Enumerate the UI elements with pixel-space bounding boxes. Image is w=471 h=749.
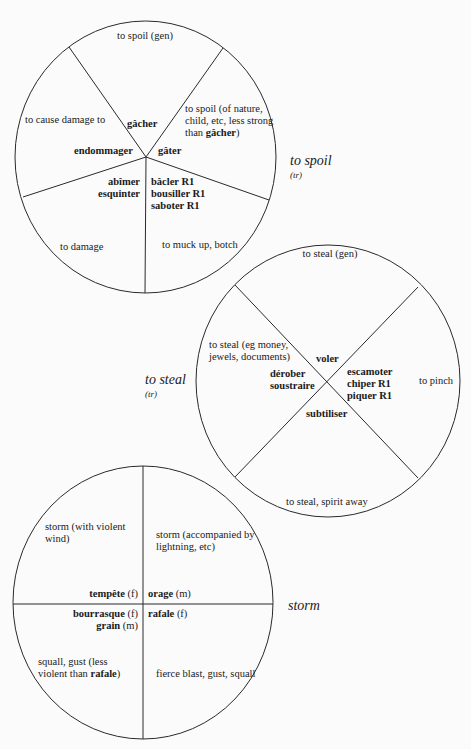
- text-suffix: ): [236, 127, 240, 138]
- spoil-word-esquinter: esquinter: [80, 188, 140, 200]
- spoil-sector-lower-right: to muck up, botch: [162, 239, 238, 251]
- spoil-word-gacher: gâcher: [127, 118, 157, 130]
- word: orage: [148, 588, 173, 599]
- storm-upper-right-line1: storm (accompanied by: [156, 529, 255, 541]
- word: bourrasque: [73, 608, 125, 619]
- storm-title: storm: [288, 599, 320, 613]
- steal-title: to steal: [145, 373, 186, 387]
- ref-gacher: gâcher: [206, 127, 236, 138]
- storm-word-bourrasque: bourrasque (f): [40, 608, 138, 620]
- gender: (f): [125, 588, 138, 599]
- text-prefix: violent than: [38, 668, 91, 679]
- storm-lower-left-line2: violent than rafale): [38, 668, 120, 680]
- spoil-word-endommager: endommager: [74, 145, 133, 157]
- text-suffix: ): [117, 668, 121, 679]
- steal-word-piquer: piquer R1: [347, 390, 392, 402]
- steal-words-left: dérober soustraire: [270, 368, 315, 392]
- storm-sector-upper-right: storm (accompanied by lightning, etc): [156, 529, 255, 553]
- spoil-sector-lower-left: to damage: [60, 241, 103, 253]
- spoil-sector-upper-right: to spoil (of nature, child, etc, less st…: [185, 103, 273, 139]
- steal-words-right: escamoter chiper R1 piquer R1: [347, 366, 392, 402]
- storm-sector-lower-right: fierce blast, gust, squall: [156, 668, 255, 680]
- storm-lower-left-line1: squall, gust (less: [38, 656, 120, 668]
- spoil-wheel: [15, 21, 276, 293]
- storm-word-tempete: tempête (f): [60, 588, 138, 600]
- steal-word-chiper: chiper R1: [347, 378, 392, 390]
- steal-word-soustraire: soustraire: [270, 380, 315, 392]
- word: tempête: [89, 588, 125, 599]
- gender: (f): [125, 608, 138, 619]
- storm-word-orage: orage (m): [148, 588, 191, 600]
- spoil-sector-upper-left: to cause damage to: [25, 114, 105, 126]
- gender: (m): [173, 588, 191, 599]
- spoil-word-gater: gâter: [158, 145, 181, 157]
- spoil-words-lower-right: bâcler R1 bousiller R1 saboter R1: [151, 176, 205, 212]
- text-prefix: than: [185, 127, 206, 138]
- spoil-word-abimer: abîmer: [80, 176, 140, 188]
- gender: (m): [120, 620, 138, 631]
- storm-upper-left-line1: storm (with violent: [45, 521, 126, 533]
- spoil-grammar: (tr): [290, 170, 302, 180]
- storm-wheel: [13, 466, 273, 739]
- steal-word-escamoter: escamoter: [347, 366, 392, 378]
- storm-sector-lower-left: squall, gust (less violent than rafale): [38, 656, 120, 680]
- ref-rafale: rafale: [91, 668, 117, 679]
- steal-sector-right: to pinch: [419, 375, 453, 387]
- steal-word-voler: voler: [316, 353, 339, 365]
- word: grain: [96, 620, 120, 631]
- spoil-upper-right-line3: than gâcher): [185, 127, 273, 139]
- steal-left-line2: jewels, documents): [209, 351, 290, 363]
- spoil-spoke-bottom: [145, 157, 146, 293]
- word: rafale: [148, 608, 174, 619]
- steal-sector-left: to steal (eg money, jewels, documents): [209, 339, 290, 363]
- spoil-word-bousiller: bousiller R1: [151, 188, 205, 200]
- storm-upper-left-line2: wind): [45, 533, 126, 545]
- steal-sector-top: to steal (gen): [290, 248, 370, 260]
- spoil-words-lower-left: abîmer esquinter: [80, 176, 140, 200]
- steal-left-line1: to steal (eg money,: [209, 339, 290, 351]
- spoil-spoke-top-left: [69, 47, 146, 157]
- spoil-title: to spoil: [290, 154, 332, 168]
- storm-words-lower-left: bourrasque (f) grain (m): [40, 608, 138, 632]
- storm-word-rafale: rafale (f): [148, 608, 187, 620]
- gender: (f): [174, 608, 187, 619]
- steal-word-derober: dérober: [270, 368, 315, 380]
- spoil-word-bacler: bâcler R1: [151, 176, 205, 188]
- storm-word-grain: grain (m): [40, 620, 138, 632]
- spoil-upper-right-line2: child, etc, less strong: [185, 115, 273, 127]
- spoil-sector-top: to spoil (gen): [105, 30, 185, 42]
- storm-upper-right-line2: lightning, etc): [156, 541, 255, 553]
- spoil-upper-right-line1: to spoil (of nature,: [185, 103, 273, 115]
- steal-sector-bottom: to steal, spirit away: [286, 496, 368, 508]
- storm-sector-upper-left: storm (with violent wind): [45, 521, 126, 545]
- steal-word-subtiliser: subtiliser: [306, 408, 347, 420]
- steal-grammar: (tr): [145, 389, 157, 399]
- spoil-word-saboter: saboter R1: [151, 200, 205, 212]
